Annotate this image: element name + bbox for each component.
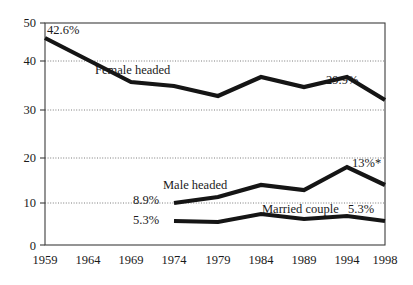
y-axis-label-0: 0 (30, 239, 36, 253)
series-label-married-couple: Married couple (262, 202, 339, 216)
x-axis-label-1969: 1969 (119, 253, 144, 267)
value-label-married-end: 5.3% (348, 202, 374, 216)
series-label-male-headed: Male headed (163, 178, 228, 192)
y-axis-label-50: 50 (24, 16, 37, 30)
value-label-female-start: 42.6% (47, 23, 79, 37)
y-axis-label-10: 10 (24, 196, 37, 210)
series-label-female-headed: Female headed (95, 63, 171, 77)
x-axis-labels: 1959 1964 1969 1974 1979 1984 1989 1994 … (33, 253, 398, 267)
x-axis-label-1989: 1989 (292, 253, 317, 267)
value-label-married-start: 5.3% (133, 213, 159, 227)
x-axis-label-1984: 1984 (249, 253, 275, 267)
x-axis-label-1994: 1994 (335, 253, 361, 267)
chart-container: 50 40 30 20 10 0 1959 1964 1969 1974 197… (0, 0, 413, 285)
y-axis-labels: 50 40 30 20 10 0 (24, 16, 37, 253)
y-axis-label-40: 40 (24, 54, 37, 68)
value-label-male-end: 13%* (352, 156, 381, 170)
y-axis-ticks (40, 23, 45, 245)
line-chart: 50 40 30 20 10 0 1959 1964 1969 1974 197… (0, 0, 413, 285)
x-axis-label-1998: 1998 (373, 253, 398, 267)
value-label-male-start: 8.9% (133, 193, 159, 207)
value-label-female-end: 29.9% (326, 73, 358, 87)
x-axis-label-1964: 1964 (76, 253, 102, 267)
x-axis-label-1974: 1974 (162, 253, 188, 267)
y-axis-label-30: 30 (24, 103, 37, 117)
x-axis-label-1979: 1979 (206, 253, 231, 267)
y-axis-label-20: 20 (24, 151, 37, 165)
x-axis-label-1959: 1959 (33, 253, 58, 267)
